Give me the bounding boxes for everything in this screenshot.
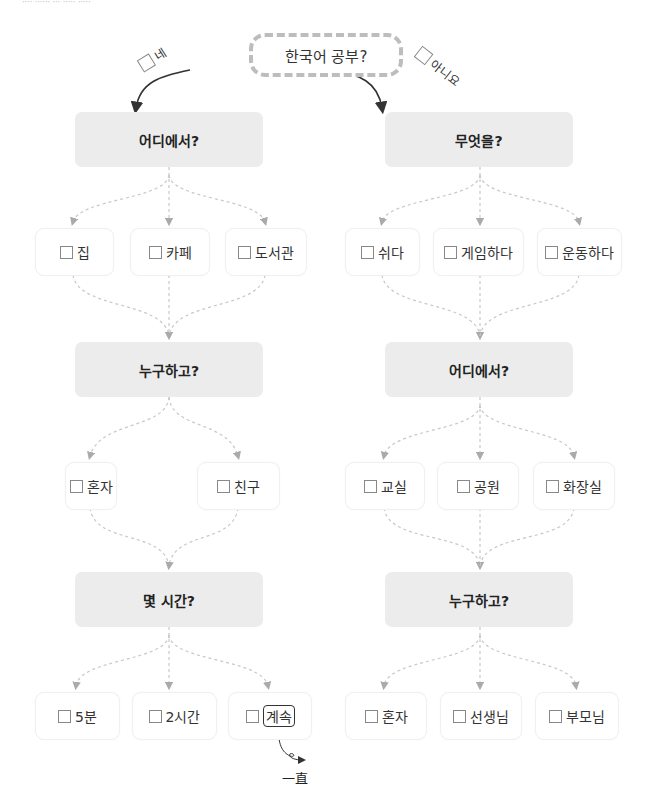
question-label: 누구하고? xyxy=(139,360,199,380)
option-parents[interactable]: 부모님 xyxy=(535,692,619,740)
checkbox[interactable] xyxy=(246,710,259,723)
flowchart-canvas: ···· ······ ··· ····· ····· xyxy=(0,0,656,791)
option-alone[interactable]: 혼자 xyxy=(65,462,117,510)
root-question: 한국어 공부? xyxy=(249,33,403,77)
option-play-game[interactable]: 게임하다 xyxy=(433,228,524,276)
option-label: 카페 xyxy=(166,242,192,262)
checkbox[interactable] xyxy=(238,246,251,259)
checkbox[interactable] xyxy=(546,480,559,493)
option-exercise[interactable]: 운동하다 xyxy=(537,228,622,276)
option-label: 혼자 xyxy=(382,706,408,726)
option-2hours[interactable]: 2시간 xyxy=(132,692,217,740)
option-teacher[interactable]: 선생님 xyxy=(440,692,522,740)
option-label: 2시간 xyxy=(166,706,201,726)
option-friend[interactable]: 친구 xyxy=(197,462,280,510)
option-label: 5분 xyxy=(75,706,97,726)
option-label: 게임하다 xyxy=(461,242,513,262)
checkbox[interactable] xyxy=(70,480,83,493)
checkbox[interactable] xyxy=(545,246,558,259)
option-5min[interactable]: 5분 xyxy=(35,692,120,740)
option-continuously[interactable]: 계속 xyxy=(228,692,312,740)
yes-arrow xyxy=(136,70,190,108)
checkbox[interactable] xyxy=(361,246,374,259)
option-library[interactable]: 도서관 xyxy=(225,228,307,276)
option-home[interactable]: 집 xyxy=(35,228,114,276)
option-label: 교실 xyxy=(381,476,407,496)
option-label: 혼자 xyxy=(87,476,113,496)
option-alone-right[interactable]: 혼자 xyxy=(345,692,427,740)
option-restroom[interactable]: 화장실 xyxy=(533,462,615,510)
option-park[interactable]: 공원 xyxy=(437,462,519,510)
checkbox[interactable] xyxy=(444,246,457,259)
checkbox[interactable] xyxy=(149,710,162,723)
option-label: 운동하다 xyxy=(562,242,614,262)
right-question-with-whom: 누구하고? xyxy=(385,572,573,627)
option-label: 화장실 xyxy=(563,476,602,496)
option-label: 선생님 xyxy=(470,706,509,726)
question-label: 무엇을? xyxy=(455,130,502,150)
checkbox[interactable] xyxy=(364,480,377,493)
right-question-what: 무엇을? xyxy=(385,112,573,167)
question-label: 누구하고? xyxy=(449,590,509,610)
option-classroom[interactable]: 교실 xyxy=(345,462,425,510)
annotation-note: 一直 xyxy=(282,768,308,787)
option-label: 집 xyxy=(77,242,90,262)
question-label: 어디에서? xyxy=(139,130,199,150)
option-label: 공원 xyxy=(474,476,500,496)
checkbox[interactable] xyxy=(60,246,73,259)
root-question-label: 한국어 공부? xyxy=(285,45,368,66)
checkbox[interactable] xyxy=(58,710,71,723)
left-question-how-long: 몇 시간? xyxy=(75,572,263,627)
checkbox[interactable] xyxy=(457,480,470,493)
checkbox[interactable] xyxy=(217,480,230,493)
question-label: 몇 시간? xyxy=(143,590,195,610)
checkbox[interactable] xyxy=(149,246,162,259)
left-question-where: 어디에서? xyxy=(75,112,263,167)
option-label: 부모님 xyxy=(566,706,605,726)
option-label-boxed: 계속 xyxy=(263,705,295,727)
left-question-with-whom: 누구하고? xyxy=(75,342,263,397)
option-label: 쉬다 xyxy=(378,242,404,262)
option-label: 친구 xyxy=(234,476,260,496)
question-label: 어디에서? xyxy=(449,360,509,380)
checkbox[interactable] xyxy=(549,710,562,723)
checkbox[interactable] xyxy=(365,710,378,723)
checkbox[interactable] xyxy=(453,710,466,723)
option-rest[interactable]: 쉬다 xyxy=(345,228,420,276)
option-label: 도서관 xyxy=(255,242,294,262)
right-question-where: 어디에서? xyxy=(385,342,573,397)
option-cafe[interactable]: 카페 xyxy=(130,228,210,276)
